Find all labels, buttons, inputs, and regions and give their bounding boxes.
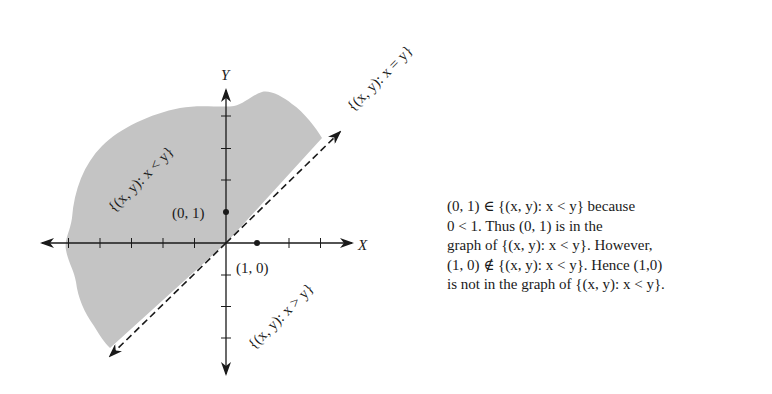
point-label-1-0: (1, 0) — [236, 260, 269, 277]
caption-line: (0, 1) ∈ {(x, y): x < y} because — [447, 197, 772, 217]
caption-line: graph of {(x, y): x < y}. However, — [447, 236, 772, 256]
point-label-0-1: (0, 1) — [172, 205, 205, 222]
region-label-x-greater-than-y: {(x, y): x > y} — [245, 280, 318, 353]
caption-line: (1, 0) ∉ {(x, y): x < y}. Hence (1,0) — [447, 256, 772, 276]
region-label-x-equals-y: {(x, y): x = y} — [344, 42, 417, 115]
point-1-0 — [254, 240, 260, 246]
y-axis-label: Y — [221, 67, 231, 83]
caption-line: 0 < 1. Thus (0, 1) is in the — [447, 217, 772, 237]
point-0-1 — [223, 209, 229, 215]
caption: (0, 1) ∈ {(x, y): x < y} because 0 < 1. … — [447, 197, 772, 295]
x-axis-label: X — [357, 237, 368, 253]
caption-line: is not in the graph of {(x, y): x < y}. — [447, 275, 772, 295]
